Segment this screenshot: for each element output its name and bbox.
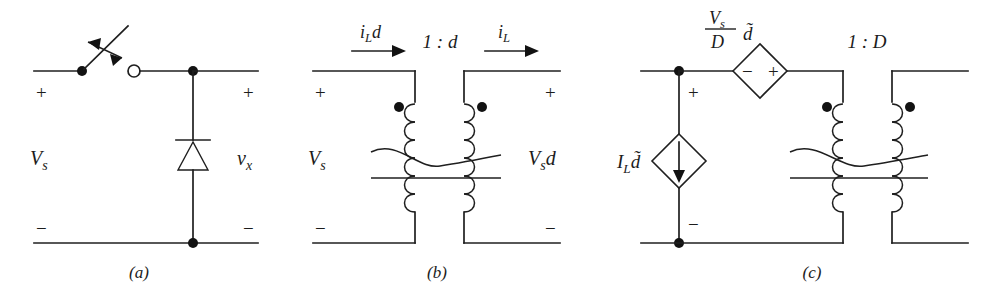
panel-c-minus-sign: −: [688, 214, 699, 235]
panel-b-turns-ratio: 1 : d: [423, 31, 458, 52]
panel-c-turns-ratio: 1 : D: [847, 31, 886, 52]
vsource-denominator: D: [710, 32, 724, 52]
switch-arrowhead-left: [88, 38, 101, 50]
dependent-voltage-source: − +: [733, 44, 787, 98]
panel-c-core-wavy-line: [790, 149, 928, 167]
panel-a-plus-left: +: [36, 82, 47, 103]
panel-b-secondary-polarity-dot: [477, 102, 487, 112]
panel-c-plus-sign: +: [688, 82, 699, 103]
vsource-plus-sign: +: [768, 61, 779, 82]
panel-b-right-current-label: iL: [498, 22, 510, 45]
panel-c-secondary-winding: [892, 104, 903, 212]
vsource-minus-sign: −: [742, 61, 753, 82]
panel-b: iLd iL 1 : d + − + − Vs Vsd (b): [308, 22, 560, 282]
panel-b-secondary-winding: [464, 104, 475, 212]
panel-b-left-current-label: iLd: [360, 22, 382, 45]
panel-b-source-label: Vs: [308, 147, 326, 173]
panel-b-output-label: Vsd: [528, 147, 557, 173]
panel-b-minus-right: −: [545, 218, 556, 239]
panel-c-secondary-polarity-dot: [905, 102, 915, 112]
panel-b-minus-left: −: [315, 218, 326, 239]
panel-a-minus-left: −: [36, 218, 47, 239]
panel-b-right-current-arrow: [485, 45, 539, 57]
panel-c: − +: [616, 8, 968, 282]
panel-b-plus-left: +: [315, 82, 326, 103]
panel-c-caption: (c): [803, 263, 822, 282]
diode-symbol: [176, 140, 210, 170]
switch-arrowheads: [88, 38, 122, 66]
panel-b-caption: (b): [427, 263, 447, 282]
panel-b-plus-right: +: [545, 82, 556, 103]
diode-triangle: [178, 142, 208, 170]
panel-b-core-wavy-line: [371, 149, 501, 167]
panel-a-bottom-node-dot: [188, 238, 198, 248]
circuit-figure: + − + − Vs vx (a): [0, 0, 982, 293]
panel-a-plus-right: +: [243, 82, 254, 103]
vsource-label-group: Vs D d̃: [705, 8, 754, 52]
panel-a-minus-right: −: [243, 218, 254, 239]
panel-c-primary-polarity-dot: [822, 102, 832, 112]
panel-b-primary-polarity-dot: [394, 102, 404, 112]
isource-arrowhead: [673, 170, 685, 183]
panel-a-output-label: vx: [237, 147, 253, 173]
panel-a-caption: (a): [129, 263, 149, 282]
open-terminal-circle: [128, 65, 140, 77]
panel-a-source-label: Vs: [30, 147, 48, 173]
vsource-dtilde: d̃: [743, 23, 754, 44]
panel-b-left-current-arrow: [352, 45, 406, 57]
dependent-current-source: [652, 134, 706, 188]
vsource-numerator: Vs: [709, 8, 725, 31]
panel-a: + − + − Vs vx (a): [30, 26, 258, 282]
switch-throw-arm: [84, 26, 128, 69]
isource-label: ILd̃: [616, 151, 641, 176]
